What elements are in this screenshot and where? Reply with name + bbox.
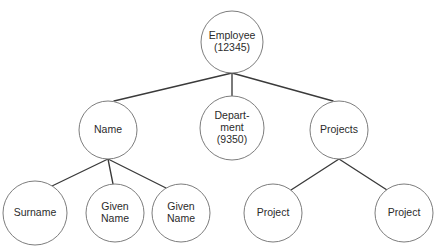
entity-tree-diagram: Employee(12345)NameDepart-ment(9350)Proj… — [0, 0, 436, 246]
node-label-given-name-1: Given — [101, 200, 129, 212]
edge-projects-project-2 — [339, 159, 387, 190]
node-label-given-name-1: Name — [101, 212, 129, 224]
node-label-surname: Surname — [14, 206, 57, 218]
node-label-project-2: Project — [388, 206, 421, 218]
node-name[interactable]: Name — [79, 101, 137, 159]
node-label-department: Depart- — [214, 109, 250, 121]
node-label-given-name-2: Given — [167, 200, 195, 212]
node-label-department: ment — [220, 121, 243, 133]
edge-employee-name — [114, 73, 232, 101]
tree-svg-canvas: Employee(12345)NameDepart-ment(9350)Proj… — [0, 0, 436, 246]
node-employee[interactable]: Employee(12345) — [201, 11, 263, 73]
node-project-1[interactable]: Project — [244, 184, 302, 242]
node-label-project-1: Project — [257, 206, 290, 218]
node-projects[interactable]: Projects — [310, 101, 368, 159]
node-project-2[interactable]: Project — [375, 184, 433, 242]
edge-projects-project-1 — [291, 159, 339, 190]
node-label-department: (9350) — [217, 133, 247, 145]
node-label-projects: Projects — [320, 123, 358, 135]
node-label-employee: Employee — [209, 29, 256, 41]
node-given-name-2[interactable]: GivenName — [152, 184, 210, 242]
edge-name-given-name-1 — [108, 159, 113, 184]
node-label-name: Name — [94, 123, 122, 135]
nodes-layer: Employee(12345)NameDepart-ment(9350)Proj… — [3, 11, 433, 245]
node-label-given-name-2: Name — [167, 212, 195, 224]
edge-name-surname — [52, 159, 108, 186]
edge-employee-projects — [232, 73, 333, 101]
node-given-name-1[interactable]: GivenName — [86, 184, 144, 242]
node-department[interactable]: Depart-ment(9350) — [200, 96, 264, 160]
node-label-employee: (12345) — [214, 41, 250, 53]
node-surname[interactable]: Surname — [3, 181, 67, 245]
